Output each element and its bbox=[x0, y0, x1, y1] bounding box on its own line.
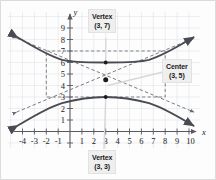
callout-vertex-bottom: Vertex (3, 3) bbox=[88, 150, 116, 174]
callout-vertex-top-title: Vertex bbox=[92, 13, 112, 20]
x-tick-label: 9 bbox=[175, 136, 179, 146]
x-tick-label: 5 bbox=[127, 136, 131, 146]
x-tick-label: -4 bbox=[19, 136, 27, 146]
x-tick-label: -2 bbox=[43, 136, 50, 146]
y-tick-label: 8 bbox=[61, 35, 65, 45]
x-axis-tick-labels: -4 -3 -2 -1 1 2 3 4 5 6 7 8 9 10 bbox=[19, 136, 195, 146]
center-point bbox=[103, 77, 108, 82]
callout-vertex-top-coords: (3, 7) bbox=[92, 21, 112, 30]
x-tick-label: 6 bbox=[139, 136, 143, 146]
x-tick-label: 7 bbox=[151, 136, 155, 146]
x-tick-label: -3 bbox=[31, 136, 38, 146]
vertex-bottom-point bbox=[104, 95, 108, 99]
callout-center-title: Center bbox=[166, 63, 188, 70]
vertex-top-point bbox=[104, 61, 108, 65]
hyperbola-figure: -4 -3 -2 -1 1 2 3 4 5 6 7 8 9 10 1 2 3 4… bbox=[0, 0, 216, 180]
x-axis-label: x bbox=[201, 127, 206, 137]
callout-vertex-top: Vertex (3, 7) bbox=[88, 9, 116, 33]
y-tick-label: 9 bbox=[61, 23, 65, 33]
x-tick-label: -1 bbox=[55, 136, 62, 146]
y-tick-label: 5 bbox=[61, 69, 65, 79]
x-tick-label: 1 bbox=[80, 136, 84, 146]
callout-center: Center (3, 5) bbox=[162, 59, 192, 83]
y-axis-label: y bbox=[73, 7, 78, 17]
x-tick-label: 8 bbox=[163, 136, 167, 146]
x-tick-label: 10 bbox=[186, 136, 195, 146]
x-tick-label: 4 bbox=[115, 136, 120, 146]
callout-vertex-bottom-coords: (3, 3) bbox=[92, 162, 112, 171]
y-tick-label: 1 bbox=[61, 115, 65, 125]
callout-center-coords: (3, 5) bbox=[166, 71, 188, 80]
y-tick-label: 2 bbox=[61, 104, 65, 114]
callout-vertex-bottom-title: Vertex bbox=[92, 154, 112, 161]
x-tick-label: 2 bbox=[92, 136, 96, 146]
callout-leader-lines bbox=[104, 38, 163, 149]
